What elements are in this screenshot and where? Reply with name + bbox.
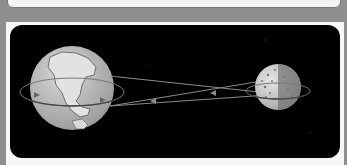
moon-icon [246, 64, 310, 110]
figure-caption [10, 160, 340, 165]
previous-page-panel [7, 0, 341, 8]
earth-icon [20, 46, 124, 130]
earth-moon-figure [10, 25, 340, 158]
connection-arrows [110, 76, 268, 106]
earth-moon-illustration [10, 25, 340, 158]
arrow-head-icon [210, 90, 216, 96]
